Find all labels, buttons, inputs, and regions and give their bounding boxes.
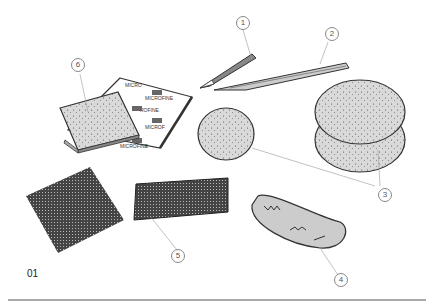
callout-6: 6 (71, 58, 85, 72)
svg-text:MICRO: MICRO (125, 82, 142, 88)
svg-text:ROFINE: ROFINE (140, 107, 160, 113)
figure-number: 01 (27, 268, 38, 279)
mesh-pad-square (26, 167, 124, 253)
svg-text:MICROFINE: MICROFINE (120, 143, 149, 149)
svg-text:MICROFINE: MICROFINE (145, 95, 174, 101)
callout-3: 3 (378, 188, 392, 202)
callout-1: 1 (236, 16, 250, 30)
cloth (252, 195, 346, 248)
callout-2: 2 (325, 27, 339, 41)
divider (8, 299, 426, 301)
round-sponge (198, 108, 254, 160)
svg-text:MICROF: MICROF (145, 124, 165, 130)
callout-4: 4 (334, 273, 348, 287)
illustration: MICRO MICROFINE ROFINE MICROF MICROFINE (0, 0, 426, 304)
callout-5: 5 (171, 249, 185, 263)
oval-sponge (315, 80, 405, 172)
mesh-pad-strip (134, 178, 228, 220)
